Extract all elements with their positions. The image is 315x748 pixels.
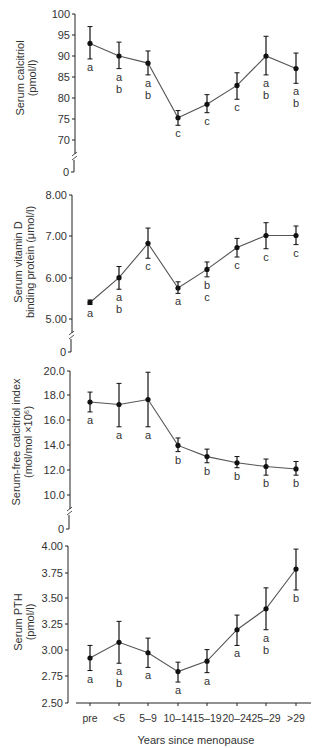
marker-dot-icon [234,627,239,632]
data-point: b [293,462,299,490]
significance-letter: a [263,632,270,644]
chart-panel-2: 8.007.006.005.000Serum vitamin Dbinding … [12,189,299,358]
data-point: c [145,228,151,272]
y-tick-label: 16.0 [44,414,65,426]
x-tick-label: >29 [287,712,305,724]
significance-letter: a [175,295,182,307]
data-point: c [234,73,240,113]
y-tick-label: 3.00 [42,644,63,656]
significance-letter: c [145,260,151,272]
marker-dot-icon [204,659,209,664]
marker-dot-icon [234,460,239,465]
y-tick-label: 90 [58,50,70,62]
significance-letter: b [293,477,299,489]
x-axis-title: Years since menopause [137,734,254,746]
axis-break-icon [72,156,77,160]
significance-letter: a [116,429,123,441]
data-point: a [87,645,94,684]
marker-dot-icon [116,640,121,645]
significance-letter: a [87,61,94,73]
significance-letter: a [234,647,241,659]
chart-panel-3: 20.018.016.014.012.010.00Serum-free calc… [10,365,299,535]
significance-letter: c [175,127,181,139]
marker-dot-icon [87,399,92,404]
marker-dot-icon [204,454,209,459]
significance-letter: c [204,115,210,127]
y-tick-label: 3.50 [42,592,63,604]
marker-dot-icon [116,402,121,407]
y-tick-label: 7.00 [46,230,67,242]
y-tick-label: 18.0 [44,389,65,401]
significance-letter: a [87,307,94,319]
marker-dot-icon [234,83,239,88]
marker-dot-icon [293,233,298,238]
marker-dot-icon [175,669,180,674]
y-tick-label: 80 [58,92,70,104]
x-tick-label: 25–29 [251,712,280,724]
data-point: a [145,638,152,681]
data-point: a [175,662,182,696]
marker-dot-icon [116,275,121,280]
marker-dot-icon [204,267,209,272]
significance-letter: b [293,97,299,109]
marker-dot-icon [116,53,121,58]
data-point: ab [116,42,123,94]
y-tick-label: 85 [58,71,70,83]
y-tick-label: 4.00 [42,540,63,552]
significance-letter: a [116,291,123,303]
y-tick-label: 2.50 [42,697,63,709]
data-point: ab [263,588,270,656]
data-point: a [87,27,94,73]
significance-letter: a [263,77,270,89]
data-point: b [263,459,269,489]
data-point: b [234,457,240,482]
data-point: ab [116,621,123,689]
x-tick-label: 20–24 [222,712,251,724]
significance-letter: a [204,675,211,687]
marker-dot-icon [145,241,150,246]
significance-letter: c [234,259,240,271]
significance-letter: a [293,85,300,97]
y-axis-title: Serum PTH(pmol/l) [12,593,36,651]
data-point: c [204,95,210,127]
significance-letter: a [145,77,152,89]
x-tick-label: 15–19 [192,712,221,724]
series-line [90,569,296,672]
y-tick-label: 14.0 [44,439,65,451]
data-point: c [263,223,269,263]
y-tick-label: 100 [52,8,70,20]
y-tick-label: 8.00 [46,189,67,201]
y-tick-label: 95 [58,29,70,41]
y-tick-label: 3.75 [42,567,63,579]
significance-letter: b [234,470,240,482]
marker-dot-icon [234,245,239,250]
y-tick-label: 75 [58,113,70,125]
data-point: b [293,549,299,604]
y-axis-title: Serum calcitriol(pmol/l) [14,40,38,115]
marker-dot-icon [87,300,92,305]
significance-letter: c [263,251,269,263]
y-tick-label: 70 [58,134,70,146]
significance-letter: a [145,429,152,441]
marker-dot-icon [145,650,150,655]
marker-dot-icon [263,233,268,238]
marker-dot-icon [175,115,180,120]
significance-letter: a [87,414,94,426]
significance-letter: a [116,71,123,83]
significance-letter: b [263,89,269,101]
x-axis: pre<55–910–1415–1920–2425–29>29Years sin… [76,703,311,746]
data-point: a [116,383,123,440]
data-point: a [204,650,211,687]
chart-panel-4: 4.003.753.503.253.002.752.50Serum PTH(pm… [12,540,299,709]
significance-letter: b [204,279,210,291]
data-point: ab [145,51,152,101]
y-tick-label: 0 [63,166,69,178]
data-point: a [87,300,94,319]
y-axis-title: Serum vitamin Dbinding protein (μmol/l) [12,206,36,318]
significance-letter: a [145,669,152,681]
significance-letter: b [116,303,122,315]
data-point: ab [293,53,300,109]
x-tick-label: 10–14 [163,712,192,724]
significance-letter: b [293,592,299,604]
significance-letter: a [116,665,123,677]
